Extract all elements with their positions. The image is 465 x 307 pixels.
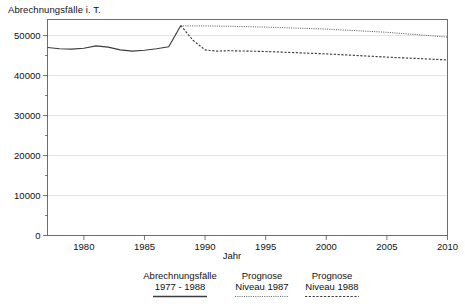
legend-label-line2: 1977 - 1988 xyxy=(155,281,206,292)
chart-container: Abrechnungsfälle i. T. 01000020000300004… xyxy=(0,0,465,307)
x-tick-label: 2005 xyxy=(376,241,397,252)
legend-label-line2: Niveau 1988 xyxy=(305,281,358,292)
chart-gridlines xyxy=(48,36,448,196)
chart-series-group xyxy=(48,26,448,60)
legend-label-line2: Niveau 1987 xyxy=(235,281,288,292)
x-tick-label: 2000 xyxy=(316,241,337,252)
y-tick-label: 0 xyxy=(35,230,40,241)
chart-plot-area: 01000020000300004000050000 1980198519901… xyxy=(0,0,465,307)
legend-label-line1: Prognose xyxy=(312,270,353,281)
y-tick-label: 20000 xyxy=(14,150,40,161)
x-tick-label: 1985 xyxy=(134,241,155,252)
x-tick-label: 1990 xyxy=(195,241,216,252)
y-tick-label: 30000 xyxy=(14,110,40,121)
y-tick-label: 50000 xyxy=(14,30,40,41)
series-line-2 xyxy=(181,26,448,60)
legend-label-line1: Prognose xyxy=(242,270,283,281)
chart-frame xyxy=(48,20,448,236)
chart-legend: Abrechnungsfälle1977 - 1988PrognoseNivea… xyxy=(143,270,359,297)
y-tick-label: 10000 xyxy=(14,190,40,201)
chart-x-axis-title: Jahr xyxy=(223,250,241,261)
x-tick-label: 1995 xyxy=(255,241,276,252)
chart-y-ticks: 01000020000300004000050000 xyxy=(14,30,47,241)
y-tick-label: 40000 xyxy=(14,70,40,81)
x-tick-label: 2010 xyxy=(437,241,458,252)
chart-x-ticks: 1980198519901995200020052010 xyxy=(73,236,458,252)
legend-label-line1: Abrechnungsfälle xyxy=(143,270,216,281)
x-tick-label: 1980 xyxy=(73,241,94,252)
series-line-1 xyxy=(48,26,181,52)
